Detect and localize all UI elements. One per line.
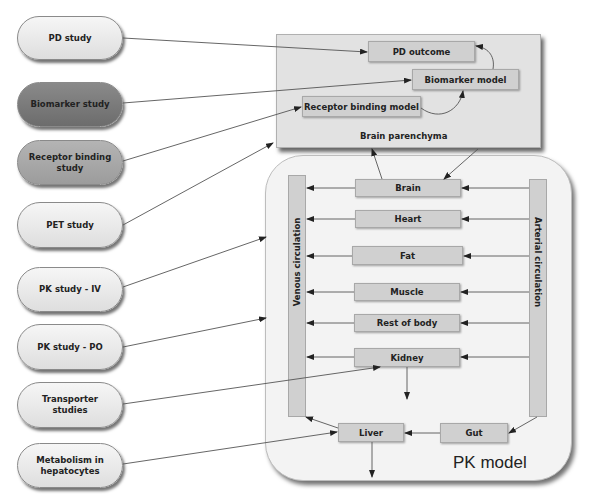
biomarker-study-label: Biomarker study [30,99,109,110]
receptor-binding-model-label: Receptor binding model [304,102,419,112]
transporter-studies-label: Transporter studies [36,394,104,416]
pd-study-label: PD study [48,33,91,44]
organ-heart-box: Heart [355,210,461,228]
organ-liver-box: Liver [338,423,404,442]
organ-rest-of-body-label: Rest of body [377,318,437,328]
pk-study-iv-label: PK study - IV [39,284,101,295]
pk-study-iv-node: PK study - IV [17,267,123,312]
organ-kidney-box: Kidney [354,348,460,367]
pd-outcome-label: PD outcome [393,47,451,57]
pd-study-node: PD study [17,16,123,60]
biomarker-model-label: Biomarker model [425,75,507,85]
receptor-binding-study-label: Receptor binding study [26,152,114,174]
pk-model-title: PK model [453,453,527,473]
organ-kidney-label: Kidney [391,353,424,363]
organ-brain-label: Brain [395,183,420,193]
venous-circulation-label: Venous circulation [292,218,302,307]
organ-liver-label: Liver [359,428,383,438]
metabolism-hepatocytes-node: Metabolism in hepatocytes [17,443,123,488]
organ-muscle-label: Muscle [390,287,423,297]
organ-fat-label: Fat [400,251,415,261]
organ-gut-box: Gut [440,423,508,443]
organ-brain-box: Brain [355,179,461,197]
pd-outcome-box: PD outcome [368,41,475,62]
organ-rest-of-body-box: Rest of body [354,314,460,332]
organ-heart-label: Heart [395,214,422,224]
organ-muscle-box: Muscle [354,283,460,301]
organ-gut-label: Gut [465,428,482,438]
pk-study-po-label: PK study - PO [37,342,102,353]
metabolism-hepatocytes-label: Metabolism in hepatocytes [30,455,110,477]
transporter-studies-node: Transporter studies [17,382,123,428]
biomarker-study-node: Biomarker study [17,82,123,127]
brain-parenchyma-title: Brain parenchyma [360,131,447,141]
organ-fat-box: Fat [352,246,463,265]
pk-study-po-node: PK study - PO [17,324,123,370]
pet-study-label: PET study [46,220,94,231]
arterial-circulation-label: Arterial circulation [533,217,543,307]
receptor-binding-model-box: Receptor binding model [302,96,421,117]
receptor-binding-study-node: Receptor binding study [17,140,123,185]
pet-study-node: PET study [17,202,123,248]
biomarker-model-box: Biomarker model [412,69,519,90]
